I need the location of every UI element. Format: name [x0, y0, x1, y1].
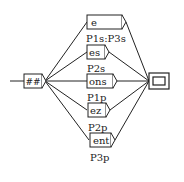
output-es: P2s [87, 63, 105, 74]
box-ons[interactable]: ons [87, 74, 117, 88]
box-e[interactable]: e [87, 15, 126, 29]
box-es-label: es [89, 47, 100, 58]
box-ent[interactable]: ent [90, 133, 115, 147]
box-ons-label: ons [89, 76, 107, 87]
transducer-graph: ## e P1s:P3s es P2s ons P1p ez P2p ent P… [0, 0, 184, 182]
initial-node[interactable]: ## [24, 74, 46, 88]
box-ez[interactable]: ez [88, 103, 110, 117]
output-ons: P1p [87, 92, 107, 103]
output-e: P1s:P3s [86, 33, 126, 44]
final-node[interactable] [149, 73, 169, 89]
output-ent: P3p [90, 152, 110, 163]
initial-node-label: ## [25, 77, 40, 87]
box-es[interactable]: es [87, 45, 109, 59]
box-ez-label: ez [90, 105, 101, 116]
output-ez: P2p [88, 122, 108, 133]
box-ent-label: ent [93, 135, 109, 146]
box-e-label: e [91, 17, 97, 28]
